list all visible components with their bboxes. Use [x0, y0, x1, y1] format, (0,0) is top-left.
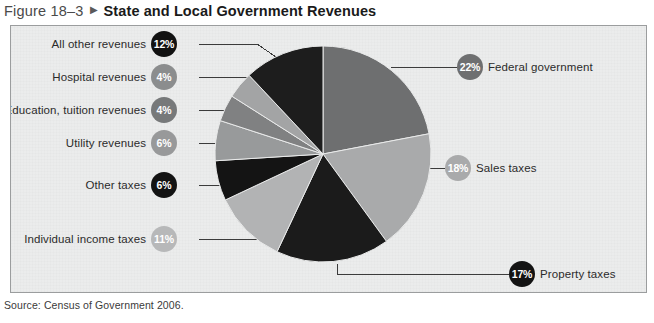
value-bubble-all-other-revenues: 12%: [151, 31, 177, 57]
callout-hospital-revenues[interactable]: Hospital revenues 4%: [52, 64, 177, 90]
value-bubble-federal-government: 22%: [457, 54, 483, 80]
chart-frame: All other revenues 12% Hospital revenues…: [10, 25, 647, 293]
triangle-right-icon: ▶: [90, 5, 98, 15]
value-bubble-hospital-revenues: 4%: [151, 64, 177, 90]
callout-all-other-revenues[interactable]: All other revenues 12%: [52, 31, 178, 57]
callout-sales-taxes[interactable]: 18% Sales taxes: [445, 155, 537, 181]
callout-label-utility-revenues: Utility revenues: [66, 137, 146, 149]
callout-individual-income-taxes[interactable]: Individual income taxes 11%: [24, 226, 177, 252]
callout-label-other-taxes: Other taxes: [85, 179, 146, 191]
value-bubble-property-taxes: 17%: [509, 261, 535, 287]
callout-education-tuition-revenues[interactable]: Education, tuition revenues 4%: [10, 97, 177, 123]
figure-number: Figure 18–3: [4, 3, 84, 19]
value-bubble-other-taxes: 6%: [151, 172, 177, 198]
callout-label-education-tuition-revenues: Education, tuition revenues: [10, 104, 146, 116]
callout-property-taxes[interactable]: 17% Property taxes: [509, 261, 616, 287]
callout-utility-revenues[interactable]: Utility revenues 6%: [66, 130, 177, 156]
callout-federal-government[interactable]: 22% Federal government: [457, 54, 593, 80]
value-bubble-utility-revenues: 6%: [151, 130, 177, 156]
figure-header: Figure 18–3 ▶ State and Local Government…: [4, 0, 376, 22]
callout-other-taxes[interactable]: Other taxes 6%: [85, 172, 177, 198]
callout-label-all-other-revenues: All other revenues: [52, 38, 147, 50]
callout-label-individual-income-taxes: Individual income taxes: [24, 233, 146, 245]
value-bubble-sales-taxes: 18%: [445, 155, 471, 181]
value-bubble-education-tuition-revenues: 4%: [151, 97, 177, 123]
callout-label-sales-taxes: Sales taxes: [476, 162, 537, 174]
value-bubble-individual-income-taxes: 11%: [151, 226, 177, 252]
callout-label-hospital-revenues: Hospital revenues: [52, 71, 146, 83]
callout-label-property-taxes: Property taxes: [540, 268, 616, 280]
pie-slice-group: [215, 46, 431, 262]
source-note: Source: Census of Government 2006.: [4, 299, 184, 311]
figure-title: State and Local Government Revenues: [104, 3, 377, 19]
callout-label-federal-government: Federal government: [488, 61, 593, 73]
